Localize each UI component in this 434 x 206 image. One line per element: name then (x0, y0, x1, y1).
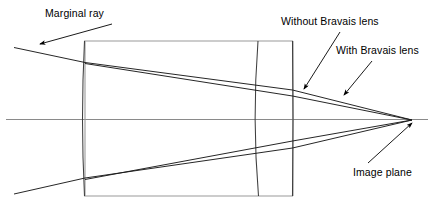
marginal-ray-label: Marginal ray (45, 7, 104, 19)
image-plane-label: Image plane (353, 166, 412, 178)
internal-refracting-surface (255, 41, 258, 196)
with-bravais-lens-label: With Bravais lens (336, 44, 419, 56)
optical-ray-diagram: Marginal ray Without Bravais lens With B… (0, 0, 434, 206)
rear-refracting-surface (293, 41, 294, 196)
left-refracting-surface (83, 41, 85, 196)
with-bravais-leader-line (344, 61, 372, 95)
without-bravais-leader-line (304, 32, 340, 89)
lower-marginal-ray-incoming (14, 178, 85, 194)
without-bravais-lens-label: Without Bravais lens (281, 15, 379, 27)
upper-marginal-ray-incoming (14, 48, 85, 63)
